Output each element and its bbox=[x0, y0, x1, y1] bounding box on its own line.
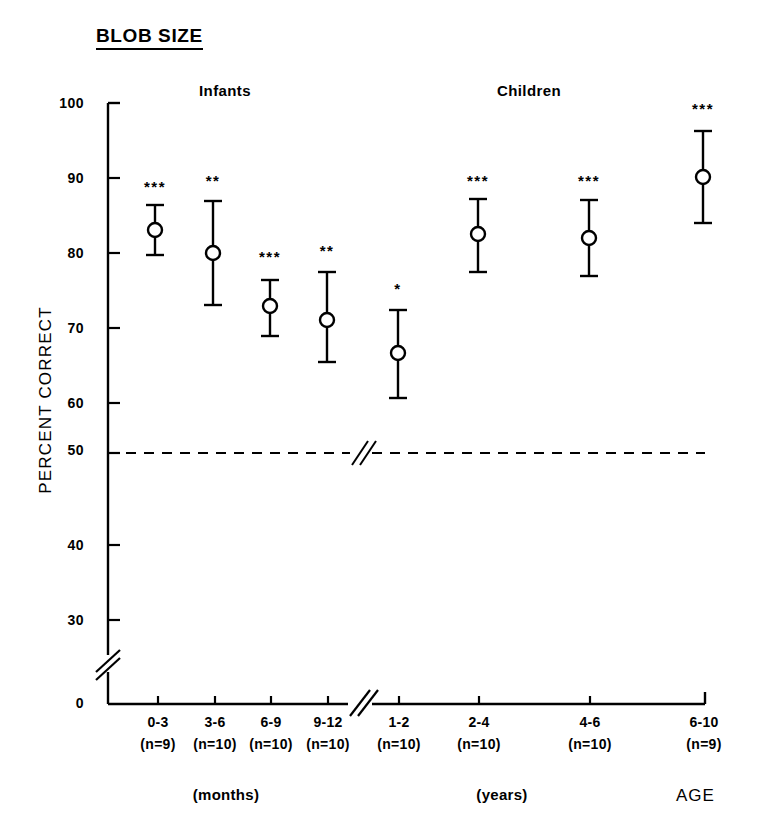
data-point-2[interactable] bbox=[261, 280, 279, 336]
data-point-3[interactable] bbox=[318, 272, 336, 362]
chart-canvas bbox=[0, 0, 761, 837]
data-point-7[interactable] bbox=[694, 131, 712, 223]
data-point-5[interactable] bbox=[469, 199, 487, 272]
data-point-1[interactable] bbox=[204, 201, 222, 305]
data-series-percent-correct bbox=[146, 131, 712, 398]
y-axis bbox=[96, 103, 120, 704]
data-point-6[interactable] bbox=[580, 200, 598, 276]
x-axis bbox=[108, 690, 705, 716]
data-point-4[interactable] bbox=[389, 310, 407, 398]
chart-figure: BLOB SIZE Infants Children PERCENT CORRE… bbox=[0, 0, 761, 837]
chance-level-line bbox=[108, 441, 705, 465]
data-point-0[interactable] bbox=[146, 205, 164, 255]
